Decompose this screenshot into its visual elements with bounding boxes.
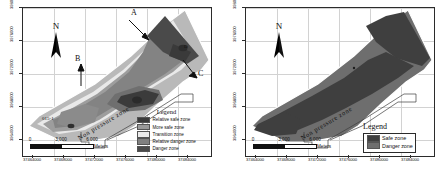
legend-swatch	[367, 142, 380, 149]
x-tick	[317, 155, 318, 158]
scale-tick: 0	[29, 137, 32, 142]
x-tick	[379, 155, 380, 158]
x-axis-labels-left: 37464000 37468000 37472000 37476000 3748…	[22, 157, 210, 169]
x-tick	[286, 155, 287, 158]
legend-title: Legend	[137, 108, 196, 115]
legend-title: Legend	[363, 122, 416, 131]
scale-tick: 0	[252, 137, 255, 142]
legend-label: Danger zone	[382, 143, 413, 149]
legend-label: Relative safe zone	[153, 117, 191, 122]
legend-item-relative-danger-zone: Relative danger zone	[137, 138, 196, 145]
legend-item-danger-zone: Danger zone	[367, 142, 413, 149]
x-tick	[63, 155, 64, 158]
legend-swatch	[137, 117, 150, 124]
x-tick	[187, 155, 188, 158]
legend-left: Legend Relative safe zone More safe zone…	[137, 108, 196, 153]
legend-item-more-safe-zone: More safe zone	[137, 124, 196, 131]
x-axis-labels-right: 37464000 37468000 37472000 37476000 3748…	[245, 157, 433, 169]
point-marker-right	[353, 67, 355, 69]
legend-swatch	[137, 131, 150, 138]
north-arrow-left: N	[46, 22, 66, 62]
north-arrow-right: N	[269, 22, 289, 62]
y-axis-labels-left: 3980000 3976000 3972000 3968000 3964000	[2, 7, 21, 155]
figure-two-map-panels: 3980000 3976000 3972000 3968000 3964000	[0, 0, 446, 185]
map-panel-left: 3980000 3976000 3972000 3968000 3964000	[0, 0, 223, 185]
legend-swatch	[137, 146, 150, 153]
scale-unit-label: Meters	[94, 144, 108, 149]
scale-bar-graphic	[30, 144, 94, 149]
legend-item-danger-zone: Danger zone	[137, 146, 196, 153]
legend-swatch	[367, 135, 380, 142]
scale-bar-left: 0 3,000 6,000 Meters	[30, 137, 94, 149]
scale-bar-graphic	[253, 144, 317, 149]
x-tick	[125, 155, 126, 158]
annotation-d-left: D	[184, 44, 188, 49]
legend-item-transition-zone: Transition zone	[137, 131, 196, 138]
scale-bar-right: 0 3,000 6,000 Meters	[253, 137, 317, 149]
scale-tick: 3,000	[55, 137, 67, 142]
x-tick	[255, 155, 256, 158]
x-tick	[348, 155, 349, 158]
legend-label: More safe zone	[153, 125, 185, 130]
legend-box-right: Safe zone Danger zone	[363, 133, 416, 153]
x-tick	[410, 155, 411, 158]
x-tick	[94, 155, 95, 158]
map-panel-right: 3980000 3976000 3972000 3968000 3964000	[223, 0, 446, 185]
annotation-c-left: C	[198, 70, 203, 78]
scale-tick: 6,000	[309, 137, 321, 142]
site-label-left: 015-1	[42, 116, 54, 121]
legend-swatch	[137, 124, 150, 131]
legend-label: Danger zone	[153, 146, 179, 151]
legend-swatch	[137, 138, 150, 145]
legend-right: Legend Safe zone Danger zone	[363, 122, 416, 153]
legend-label: Safe zone	[382, 135, 406, 141]
legend-item-relative-safe-zone: Relative safe zone	[137, 117, 196, 124]
x-tick	[32, 155, 33, 158]
annotation-b-left: B	[75, 55, 80, 63]
x-tick	[156, 155, 157, 158]
legend-label: Relative danger zone	[153, 139, 196, 144]
y-axis-labels-right: 3980000 3976000 3972000 3968000 3964000	[225, 7, 244, 155]
scale-tick: 3,000	[278, 137, 290, 142]
annotation-a-left: A	[131, 9, 137, 17]
legend-item-safe-zone: Safe zone	[367, 135, 413, 142]
scale-tick: 6,000	[86, 137, 98, 142]
legend-label: Transition zone	[153, 132, 184, 137]
scale-unit-label: Meters	[317, 144, 331, 149]
